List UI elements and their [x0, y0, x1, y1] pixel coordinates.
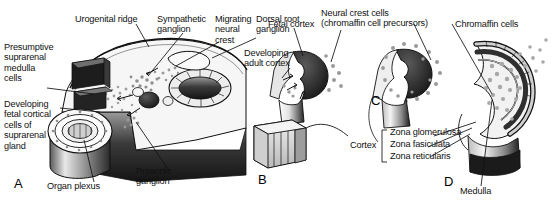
label-zona-glomerulosa: Zona glomerulosa	[390, 127, 461, 137]
neural-tube	[169, 69, 231, 107]
label-zona-fasiculata: Zona fasiculata	[390, 139, 450, 149]
panel-letter-b: B	[258, 172, 267, 187]
label-neural-crest-cells: Neural crest cells (chromaffin cell prec…	[321, 8, 428, 29]
label-zona-reticularis: Zona reticularis	[390, 151, 450, 161]
label-medulla: Medulla	[460, 186, 491, 196]
label-organ-plexus: Organ plexus	[47, 181, 100, 191]
label-chromaffin-cells: Chromaffin cells	[455, 19, 518, 29]
label-sympathetic-ganglion: Sympathetic ganglion	[157, 14, 206, 35]
presumptive-medulla-block	[72, 58, 112, 112]
panel-letter-c: C	[371, 93, 380, 108]
label-urogenital-ridge: Urogenital ridge	[75, 14, 137, 24]
embryology-figure: Urogenital ridge Sympathetic ganglion Mi…	[0, 0, 556, 207]
suprarenal-gland-cylinder	[48, 109, 112, 178]
label-developing-fetal-cortex: Developing fetal cortical cells of supra…	[4, 99, 51, 151]
label-developing-adult-cortex: Developing adult cortex	[244, 48, 290, 69]
label-presumptive-medulla: Presumptive suprarenal medulla cells	[4, 42, 53, 84]
label-preaortic-ganglion: Preaortic ganglion	[136, 166, 171, 187]
panel-letter-a: A	[14, 176, 23, 191]
label-cortex: Cortex	[350, 140, 376, 150]
panel-a-artwork	[48, 39, 247, 182]
label-migrating-neural-crest: Migrating neural crest	[215, 14, 251, 45]
panel-letter-d: D	[444, 174, 453, 189]
label-fetal-cortex: Fetal cortex	[268, 19, 314, 29]
